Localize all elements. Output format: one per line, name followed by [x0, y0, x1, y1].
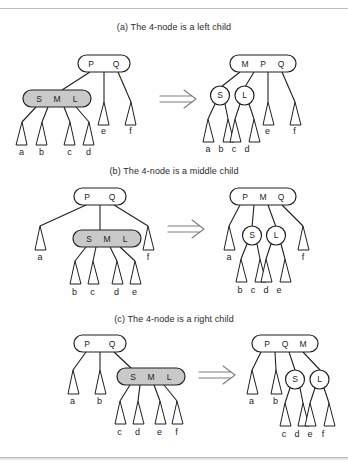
- edge-L-to-d: [266, 244, 271, 259]
- leaf-label-c: c: [251, 285, 256, 295]
- node-key-Q: Q: [282, 339, 289, 349]
- edge-fournode-to-d: [76, 107, 89, 122]
- node-key-P: P: [84, 339, 90, 349]
- node-key-M: M: [299, 339, 306, 349]
- subtree-c: [88, 261, 99, 284]
- edge-S-to-b: [241, 244, 247, 259]
- edge-fournode-to-f: [164, 385, 177, 401]
- subtree-d: [249, 119, 260, 142]
- subtree-b: [236, 259, 247, 282]
- leaf-label-b: b: [72, 287, 77, 297]
- edge-fournode-to-c: [120, 385, 130, 401]
- leaf-label-f: f: [175, 427, 178, 437]
- subtree-c: [280, 403, 291, 426]
- case-b-before: P Q S M L a f b c d e: [35, 188, 154, 297]
- subtree-b: [271, 370, 282, 394]
- subtree-f: [172, 401, 183, 424]
- transform-arrow-b: [168, 220, 204, 238]
- transform-arrow-c: [199, 366, 235, 384]
- node-key-S: S: [292, 374, 298, 384]
- leaf-label-b: b: [237, 285, 242, 295]
- diagram-case-a: P Q S M L a b c d e f: [0, 14, 348, 159]
- subtree-a: [247, 370, 258, 394]
- leaf-label-e: e: [307, 429, 312, 439]
- node-key-S: S: [130, 372, 136, 382]
- edge-parent-to-L: [303, 352, 320, 370]
- node-key-P: P: [260, 59, 266, 69]
- leaf-label-f: f: [322, 429, 325, 439]
- edge-parent-to-a: [40, 205, 86, 226]
- leaf-label-d: d: [244, 144, 249, 154]
- edge-fournode-to-a: [22, 107, 36, 122]
- edge-parent-to-fournode: [114, 352, 131, 368]
- leaf-label-a: a: [226, 252, 231, 262]
- subtree-c: [64, 122, 75, 145]
- leaf-label-a: a: [70, 396, 75, 406]
- edge-fournode-to-d: [138, 385, 140, 401]
- node-key-L: L: [317, 374, 322, 384]
- node-key-S: S: [217, 90, 223, 100]
- node-key-L: L: [123, 234, 128, 244]
- edge-fournode-to-b: [42, 107, 48, 122]
- leaf-label-f: f: [302, 252, 305, 262]
- leaf-label-e: e: [157, 427, 162, 437]
- subtree-b: [95, 370, 106, 394]
- subtree-f: [298, 226, 309, 250]
- leaf-label-c: c: [282, 429, 287, 439]
- subtree-e: [263, 102, 274, 125]
- node-key-P: P: [264, 339, 270, 349]
- node-key-P: P: [84, 192, 90, 202]
- node-key-S: S: [86, 234, 92, 244]
- node-parent-PQ: [78, 55, 130, 72]
- edge-L-to-d: [249, 104, 254, 119]
- edge-parent-to-S: [289, 352, 295, 370]
- node-key-S: S: [36, 94, 42, 104]
- edge-parent-to-a: [73, 352, 86, 370]
- edge-parent-to-a: [252, 352, 261, 370]
- figure-page: (a) The 4-node is a left child P Q: [0, 0, 348, 466]
- node-key-M: M: [241, 59, 248, 69]
- subtree-a: [16, 122, 27, 145]
- diagram-case-b: P Q S M L a f b c d e: [0, 160, 348, 305]
- leaf-label-c: c: [90, 287, 95, 297]
- leaf-label-e: e: [276, 285, 281, 295]
- leaf-label-f: f: [293, 126, 296, 136]
- edge-S-to-c: [285, 388, 290, 403]
- node-parent-PQ: [74, 188, 126, 205]
- leaf-label-e: e: [132, 287, 137, 297]
- subtree-e: [98, 102, 109, 125]
- subtree-a: [35, 226, 46, 250]
- case-a-before: P Q S M L a b c d e f: [16, 55, 136, 157]
- node-key-Q: Q: [278, 192, 285, 202]
- leaf-label-a: a: [249, 396, 254, 406]
- edge-L-to-e: [281, 244, 285, 259]
- node-key-P: P: [88, 59, 94, 69]
- leaf-label-e: e: [101, 126, 106, 136]
- edge-parent-to-S: [252, 205, 254, 227]
- subtree-a: [224, 226, 235, 250]
- leaf-label-d: d: [263, 285, 268, 295]
- subtree-b: [70, 261, 81, 284]
- leaf-label-f: f: [129, 126, 132, 136]
- leaf-label-a: a: [205, 144, 210, 154]
- node-key-L: L: [274, 230, 279, 240]
- leaf-label-c: c: [117, 427, 122, 437]
- node-key-Q: Q: [278, 59, 285, 69]
- node-key-L: L: [167, 372, 172, 382]
- bottom-divider-shadow: [0, 458, 348, 461]
- case-c-after: P Q M S L a b c d e f: [247, 335, 335, 439]
- node-key-M: M: [147, 372, 154, 382]
- node-key-M: M: [103, 234, 110, 244]
- panel-case-c: (c) The 4-node is a right child P Q S M …: [0, 306, 348, 456]
- subtree-f: [125, 102, 136, 125]
- edge-parent-to-fournode: [62, 72, 90, 90]
- edge-parent-to-L: [245, 72, 254, 87]
- leaf-label-a: a: [19, 147, 24, 157]
- edge-parent-to-S: [221, 72, 240, 87]
- panel-case-b: (b) The 4-node is a middle child P Q S M…: [0, 160, 348, 305]
- subtree-c: [115, 401, 126, 424]
- subtree-c: [230, 119, 241, 142]
- edge-fournode-to-e: [120, 247, 135, 261]
- edge-parent-to-f: [282, 205, 303, 226]
- edge-S-to-d: [300, 388, 303, 403]
